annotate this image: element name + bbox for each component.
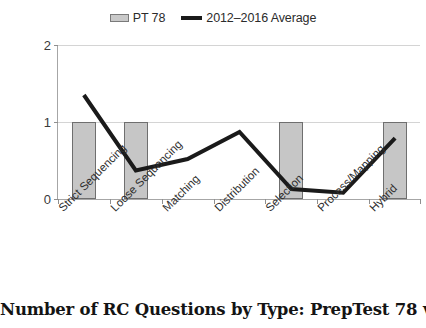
xaxis-labels: Strict SequencingLoose SequencingMatchin… bbox=[57, 200, 420, 288]
bar-swatch-icon bbox=[110, 14, 129, 22]
legend-entry-pt78: PT 78 bbox=[110, 12, 166, 25]
ytick-label-2: 2 bbox=[44, 39, 51, 52]
legend-label-average: 2012–2016 Average bbox=[206, 12, 316, 25]
ytick-label-0: 0 bbox=[44, 193, 51, 206]
legend-entry-average: 2012–2016 Average bbox=[181, 12, 316, 25]
chart-caption: Number of RC Questions by Type: PrepTest… bbox=[0, 300, 426, 319]
ytick-label-1: 1 bbox=[44, 116, 51, 129]
chart-legend: PT 78 2012–2016 Average bbox=[0, 12, 426, 25]
plot-area: 2 1 0 bbox=[57, 45, 420, 200]
xtick-mark-7 bbox=[420, 199, 421, 204]
chart-figure: PT 78 2012–2016 Average 2 1 0 Strict Seq… bbox=[0, 0, 426, 328]
legend-label-pt78: PT 78 bbox=[133, 12, 166, 25]
line-swatch-icon bbox=[181, 16, 202, 20]
